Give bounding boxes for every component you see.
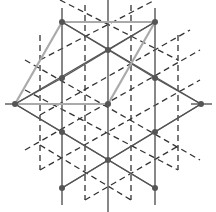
lattice-node (105, 101, 111, 107)
lattice-node (152, 185, 158, 191)
lattice-node (152, 19, 158, 25)
lattice-node (198, 101, 204, 107)
lattice-node (59, 19, 65, 25)
lattice-node (105, 47, 111, 53)
lattice-node (152, 75, 158, 81)
lattice-node (59, 185, 65, 191)
lattice-node (152, 129, 158, 135)
lattice-svg (0, 0, 216, 212)
lattice-node (105, 157, 111, 163)
lattice-node (59, 129, 65, 135)
lattice-node (59, 75, 65, 81)
lattice-node (12, 101, 18, 107)
lattice-diagram (0, 0, 216, 212)
